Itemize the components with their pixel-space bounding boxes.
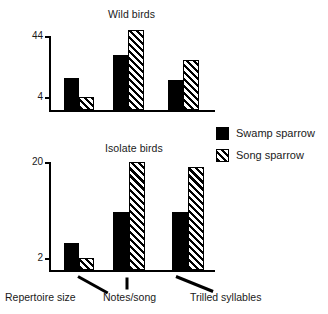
category-label-trilled-syllables: Trilled syllables	[190, 291, 261, 303]
y-tick-label-wild-44: 44	[16, 30, 43, 41]
bar-wild-repertoire-song	[79, 97, 94, 110]
y-tick-label-wild-4: 4	[16, 91, 43, 102]
y-tick-label-isolate-20: 20	[14, 156, 43, 167]
legend-entry-song-sparrow: Song sparrow	[216, 144, 315, 166]
legend-swatch-solid-icon	[216, 127, 229, 140]
y-axis-line-wild	[49, 36, 51, 112]
bar-wild-trilled-song	[183, 60, 199, 110]
bar-isolate-repertoire-song	[79, 258, 94, 270]
bar-wild-notes-swamp	[113, 55, 128, 110]
category-label-repertoire-size: Repertoire size	[5, 291, 76, 303]
bar-isolate-repertoire-swamp	[64, 243, 79, 270]
chart-legend: Swamp sparrow Song sparrow	[216, 122, 315, 166]
chart-title-isolate-birds: Isolate birds	[105, 142, 163, 154]
bar-isolate-trilled-swamp	[172, 212, 188, 270]
y-tick-mark-isolate-2	[45, 258, 49, 260]
bar-wild-trilled-swamp	[168, 80, 183, 110]
x-axis-line-wild	[49, 110, 215, 112]
bar-wild-repertoire-swamp	[64, 78, 79, 110]
legend-label-swamp-sparrow: Swamp sparrow	[236, 127, 315, 139]
bar-isolate-trilled-song	[188, 167, 204, 270]
y-tick-mark-wild-44	[45, 36, 49, 38]
bar-wild-notes-song	[128, 30, 144, 110]
category-label-notes-song: Notes/song	[103, 291, 156, 303]
figure-sparrow-song-comparison: Wild birds 44 4 Isolate birds 20 2	[0, 0, 328, 314]
x-axis-line-isolate	[49, 270, 215, 272]
chart-title-wild-birds: Wild birds	[108, 8, 155, 20]
legend-label-song-sparrow: Song sparrow	[236, 149, 304, 161]
y-tick-label-isolate-2: 2	[14, 252, 43, 263]
bar-isolate-notes-song	[129, 162, 145, 270]
y-axis-line-isolate	[49, 162, 51, 272]
bar-isolate-notes-swamp	[113, 212, 129, 270]
legend-swatch-hatched-icon	[216, 149, 229, 162]
y-tick-mark-wild-4	[45, 97, 49, 99]
legend-entry-swamp-sparrow: Swamp sparrow	[216, 122, 315, 144]
leader-line-notes-song	[126, 278, 129, 290]
y-tick-mark-isolate-20	[45, 162, 49, 164]
